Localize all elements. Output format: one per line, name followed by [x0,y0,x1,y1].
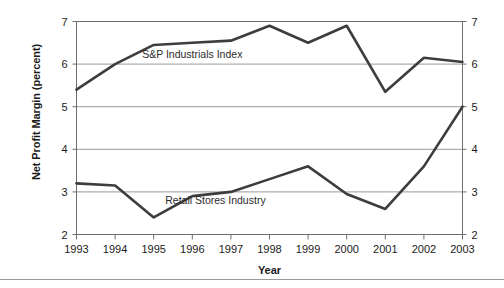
y-tick-label-right: 2 [472,229,478,241]
y-tick-label-right: 3 [472,186,478,198]
y-tick-label-left: 5 [61,101,67,113]
series-inline-label: S&P Industrials Index [142,48,243,60]
x-tick-label: 1999 [296,243,320,255]
series-line [77,26,463,92]
x-tick-label: 1993 [64,243,88,255]
x-tick-label: 2000 [334,243,358,255]
series-lines-group [77,26,463,218]
x-tick-label: 1996 [180,243,204,255]
x-tick-label: 2003 [450,243,474,255]
gridlines-group [77,64,463,192]
y-tick-label-right: 5 [472,101,478,113]
series-inline-label: Retail Stores Industry [165,194,266,206]
y-axis-left-ticks: 234567 [61,16,76,241]
y-tick-label-left: 2 [61,229,67,241]
x-tick-label: 1997 [219,243,243,255]
y-tick-label-left: 3 [61,186,67,198]
y-tick-label-left: 4 [61,143,67,155]
x-tick-labels-group: 1993199419951996199719981999200020012002… [64,243,474,255]
y-tick-label-right: 6 [472,58,478,70]
x-tick-label: 1995 [141,243,165,255]
y-tick-label-left: 7 [61,16,67,28]
y-tick-label-left: 6 [61,58,67,70]
y-tick-label-right: 4 [472,143,478,155]
y-tick-label-right: 7 [472,16,478,28]
chart-figure: Net Profit Margin (percent) 234567 23456… [0,0,504,288]
x-axis-title: Year [76,264,463,276]
bottom-divider [0,279,504,280]
y-axis-right-ticks: 234567 [463,16,478,241]
x-tick-label: 2002 [412,243,436,255]
line-chart-plot: 234567 234567 19931994199519961997199819… [0,0,504,288]
x-tick-label: 1998 [257,243,281,255]
x-tick-label: 2001 [373,243,397,255]
series-inline-labels-group: S&P Industrials IndexRetail Stores Indus… [142,48,266,206]
x-tick-marks-group [77,235,463,240]
x-tick-label: 1994 [103,243,127,255]
series-line [77,107,463,218]
